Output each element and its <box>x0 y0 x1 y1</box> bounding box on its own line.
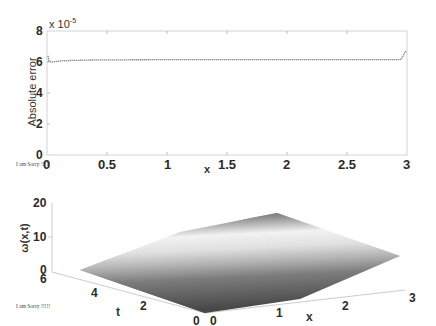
watermark-bottom: I am Sorry !!!!! <box>16 303 50 309</box>
x-axis-label: x <box>204 163 210 175</box>
watermark-top: I am Sorry !!!!! <box>16 161 50 167</box>
surface-plot-canvas <box>0 180 436 326</box>
error-plot: x 10-5 8 6 4 2 0 Absolute error 0 0.5 1 … <box>0 0 436 180</box>
x-axis-label-3d: x <box>306 310 313 324</box>
surface-plot: 20 10 0 ω(x,t) 6 4 2 0 t 0 1 2 3 x I am … <box>0 180 436 326</box>
z-axis-label: ω(x,t) <box>18 218 30 258</box>
y-tick-8: 8 <box>36 25 43 37</box>
t-tick-4: 4 <box>91 287 98 299</box>
error-plot-axes-box <box>47 31 407 155</box>
z-tick-20: 20 <box>33 197 46 209</box>
error-curve <box>48 51 406 62</box>
y-axis-label: Absolute error <box>26 47 38 137</box>
x-tick-1: 1 <box>164 158 171 171</box>
x-tick-0-3d: 0 <box>210 315 217 326</box>
x-tick-0.5: 0.5 <box>98 158 116 171</box>
t-tick-0: 0 <box>193 315 200 326</box>
x-tick-1.5: 1.5 <box>218 158 236 171</box>
t-tick-6: 6 <box>40 273 47 285</box>
x-tick-2-3d: 2 <box>342 300 349 312</box>
y-tick-0: 0 <box>36 149 43 161</box>
x-tick-2.5: 2.5 <box>338 158 356 171</box>
t-axis-label: t <box>116 305 120 319</box>
x-tick-2: 2 <box>283 158 290 171</box>
t-tick-2: 2 <box>140 300 147 312</box>
x-tick-3: 3 <box>403 158 410 171</box>
x-tick-3-3d: 3 <box>409 292 416 304</box>
y-multiplier: x 10-5 <box>49 17 76 30</box>
z-tick-10: 10 <box>33 231 46 243</box>
multiplier-exponent: -5 <box>70 17 76 24</box>
multiplier-text: x 10 <box>49 18 70 30</box>
x-tick-1-3d: 1 <box>276 307 283 319</box>
